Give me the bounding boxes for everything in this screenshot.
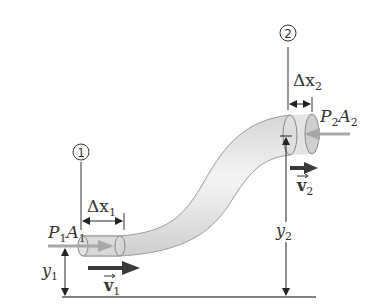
label-delta-x1: Δx1 [87,196,116,219]
height-y2-dimension [280,136,292,295]
label-delta-x2: Δx2 [293,70,322,93]
velocity-arrow-1 [88,261,140,275]
label-y2: y2 [275,221,292,243]
label-y1: y1 [41,261,58,283]
svg-text:1: 1 [77,146,85,160]
point-1-marker: 1 [73,144,89,230]
svg-text:2: 2 [284,27,292,41]
point-2-marker: 2 [280,25,296,110]
svg-text:v2: v2 [296,176,313,198]
label-v2: v2 [296,174,313,198]
pipe-body [83,115,290,256]
velocity-arrow-2 [290,162,318,174]
bernoulli-diagram: 1 2 P1A1 Δx1 y1 v1 [0,0,386,307]
label-P2A2: P2A2 [319,106,358,129]
delta-x2-dimension [290,97,312,112]
label-v1: v1 [103,274,120,298]
label-P1A1: P1A1 [47,222,86,245]
svg-text:v1: v1 [103,276,120,298]
